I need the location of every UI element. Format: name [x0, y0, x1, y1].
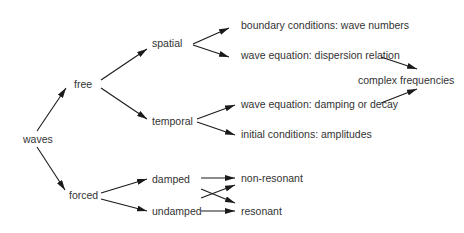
- arrow-forced-to-undamped: [101, 199, 147, 211]
- node-damping-or-decay: wave equation: damping or decay: [241, 98, 398, 110]
- arrow-spatial-to-boundary: [193, 28, 229, 44]
- arrow-waves-to-free: [37, 88, 66, 131]
- node-temporal: temporal: [152, 115, 193, 127]
- node-dispersion-relation: wave equation: dispersion relation: [241, 49, 400, 61]
- node-boundary-conditions: boundary conditions: wave numbers: [241, 19, 409, 31]
- arrow-free-to-spatial: [101, 49, 147, 80]
- node-spatial: spatial: [152, 37, 182, 49]
- arrow-waves-to-forced: [37, 147, 65, 190]
- node-resonant: resonant: [241, 205, 282, 217]
- node-initial-conditions: initial conditions: amplitudes: [241, 128, 372, 140]
- node-complex-frequencies: complex frequencies: [358, 74, 454, 86]
- node-forced: forced: [69, 189, 98, 201]
- node-damped: damped: [152, 173, 190, 185]
- node-free: free: [74, 78, 92, 90]
- node-non-resonant: non-resonant: [241, 172, 303, 184]
- arrow-spatial-to-dispersion: [193, 45, 229, 57]
- node-undamped: undamped: [152, 205, 202, 217]
- arrow-temporal-to-damping: [197, 105, 235, 119]
- arrow-forced-to-damped: [101, 179, 147, 193]
- arrow-temporal-to-initial: [197, 122, 235, 135]
- arrow-free-to-temporal: [101, 88, 147, 119]
- node-waves: waves: [23, 133, 53, 145]
- wave-classification-diagram: waves free forced spatial temporal bound…: [0, 0, 464, 233]
